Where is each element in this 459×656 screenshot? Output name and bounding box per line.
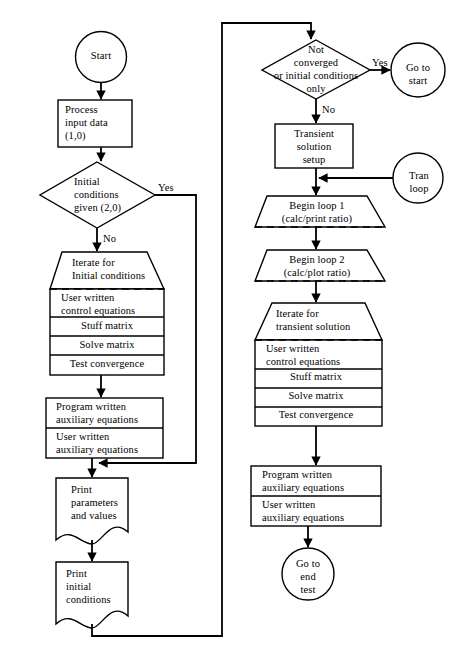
decision-converged-line3: or initial conditions [274,70,358,82]
print-initial-line1: Print [66,568,87,580]
process-input-line2: input data [65,117,108,129]
stack-transient-1-line1: Stuff matrix [290,371,342,383]
flowchart-graphics [0,0,459,656]
go-to-end-test-line1: Go to [296,558,320,570]
decision-initial-no-label: No [103,233,116,245]
decision-converged-no-label: No [322,104,335,116]
begin-loop-2-line2: (calc/plot ratio) [284,267,351,279]
decision-converged-line4: only [306,83,325,95]
aux-initial-0-line1: Program written [56,401,126,413]
stack-transient-0-line1: User written [266,343,319,355]
decision-initial-yes-label: Yes [158,182,174,194]
process-input-line1: Process [65,104,98,116]
decision-initial-line2: conditions [74,189,119,201]
tran-loop-line2: loop [409,183,428,195]
begin-loop-1-line1: Begin loop 1 [289,200,344,212]
transient-setup-line2: solution [297,141,332,153]
transient-setup-line3: setup [303,154,326,166]
aux-transient-1-line2: auxiliary equations [262,512,344,524]
tran-loop-line1: Tran [409,170,429,182]
stack-transient-2-line1: Solve matrix [288,390,343,402]
begin-loop-2-line1: Begin loop 2 [289,254,344,266]
print-parameters-line3: and values [71,510,117,522]
process-input-line3: (1,0) [65,130,86,142]
begin-loop-1-line2: (calc/print ratio) [282,213,352,225]
aux-initial-0-line2: auxiliary equations [56,414,138,426]
aux-initial-1-line1: User written [56,431,109,443]
go-to-start-line1: Go to [406,62,430,74]
go-to-start-line2: start [409,75,428,87]
flowchart-canvas: Start Process input data (1,0) Initial c… [0,0,459,656]
print-initial-line2: initial [66,581,91,593]
iterate-initial-line1: Iterate for [72,257,115,269]
stack-transient-0-line2: control equations [266,356,340,368]
aux-transient-0-line1: Program written [262,469,332,481]
aux-transient-0-line2: auxiliary equations [262,482,344,494]
print-initial-line3: conditions [66,594,111,606]
print-parameters-line2: parameters [71,497,118,509]
stack-transient-3-line1: Test convergence [279,409,353,421]
aux-transient-1-line1: User written [262,499,315,511]
decision-initial-line3: given (2,0) [74,202,121,214]
stack-initial-0-line1: User written [61,292,114,304]
stack-initial-1-line1: Stuff matrix [81,320,133,332]
iterate-transient-line1: Iterate for [276,308,319,320]
decision-converged-line2: converged [294,57,338,69]
iterate-initial-line2: Initial conditions [72,270,145,282]
stack-initial-2-line1: Solve matrix [79,339,134,351]
aux-initial-1-line2: auxiliary equations [56,444,138,456]
start-label: Start [91,50,111,62]
decision-converged-line1: Not [308,44,324,56]
stack-initial-0-line2: control equations [61,305,135,317]
decision-initial-line1: Initial [74,176,100,188]
go-to-end-test-line3: test [301,584,316,596]
iterate-transient-line2: transient solution [276,321,350,333]
transient-setup-line1: Transient [294,128,334,140]
print-parameters-line1: Print [71,484,92,496]
decision-converged-yes-label: Yes [372,57,388,69]
go-to-end-test-line2: end [300,571,315,583]
stack-initial-3-line1: Test convergence [70,358,144,370]
